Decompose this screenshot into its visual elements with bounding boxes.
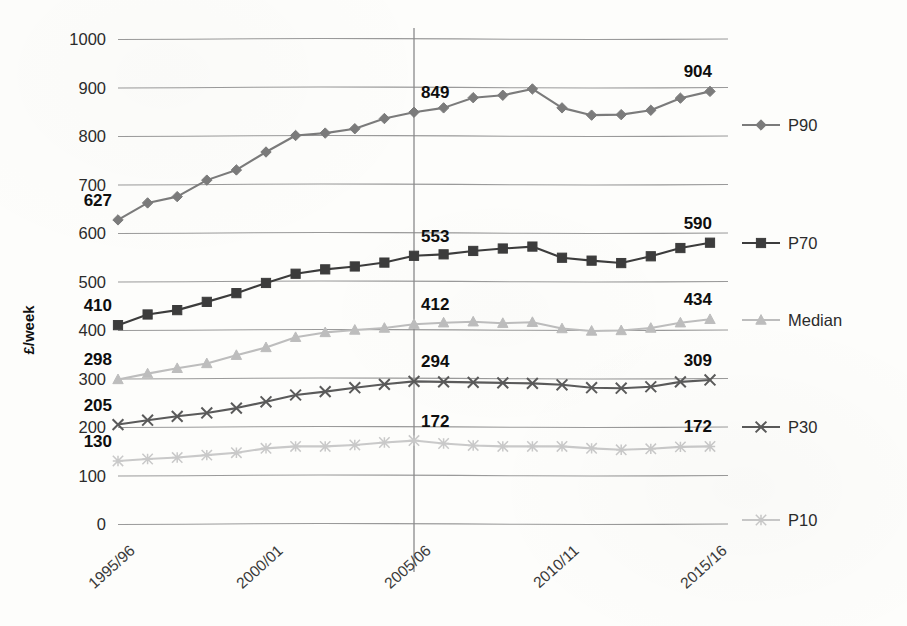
y-axis-tick-label: 900 — [78, 79, 106, 97]
data-point-marker — [143, 310, 152, 319]
data-point-marker — [675, 442, 685, 452]
y-axis-tick-label: 600 — [78, 224, 106, 242]
x-axis-tick-label: 2015/16 — [677, 542, 730, 592]
data-point-marker — [756, 238, 765, 247]
data-point-marker — [172, 191, 182, 201]
data-point-label: 553 — [421, 227, 449, 246]
data-point-marker — [756, 120, 766, 130]
y-axis-tick-label: 400 — [78, 321, 106, 339]
data-point-marker — [290, 130, 300, 140]
data-point-marker — [173, 306, 182, 315]
data-point-marker — [438, 438, 448, 448]
y-axis-tick-label: 0 — [97, 515, 106, 533]
data-point-marker — [586, 443, 596, 453]
data-point-marker — [320, 128, 330, 138]
y-axis-tick-label: 300 — [78, 370, 106, 388]
data-point-marker — [527, 441, 537, 451]
data-point-marker — [113, 215, 123, 225]
data-point-marker — [469, 246, 478, 255]
series-p10: 130172172 — [84, 412, 716, 467]
data-point-marker — [261, 443, 271, 453]
data-point-marker — [646, 444, 656, 454]
y-axis-tick-label: 100 — [78, 467, 106, 485]
data-point-marker — [231, 448, 241, 458]
data-point-marker — [172, 452, 182, 462]
legend-item-label: P30 — [788, 418, 817, 436]
line-chart: 01002003004005006007008009001000£/week19… — [0, 0, 907, 626]
data-point-marker — [142, 198, 152, 208]
legend-item-label: Median — [788, 311, 842, 329]
data-point-marker — [675, 93, 685, 103]
data-point-marker — [350, 124, 360, 134]
data-point-marker — [261, 147, 271, 157]
data-point-label: 130 — [84, 432, 112, 451]
data-point-marker — [527, 84, 537, 94]
data-point-marker — [646, 105, 656, 115]
data-point-marker — [676, 243, 685, 252]
data-point-label: 172 — [684, 417, 712, 436]
y-axis-tick-label: 800 — [78, 127, 106, 145]
data-point-marker — [232, 289, 241, 298]
data-point-marker — [468, 440, 478, 450]
legend-item-p30[interactable]: P30 — [742, 418, 817, 436]
data-point-marker — [409, 251, 418, 260]
x-axis-tick-label: 1995/96 — [85, 542, 138, 592]
data-point-label: 205 — [84, 396, 112, 415]
data-point-marker — [409, 107, 419, 117]
data-point-marker — [468, 92, 478, 102]
y-axis-tick-label: 500 — [78, 273, 106, 291]
data-point-label: 172 — [421, 412, 449, 431]
legend-item-p90[interactable]: P90 — [742, 116, 817, 134]
data-point-marker — [557, 103, 567, 113]
data-point-label: 294 — [421, 352, 450, 371]
data-point-marker — [557, 441, 567, 451]
data-point-marker — [291, 269, 300, 278]
y-axis-title: £/week — [20, 305, 37, 355]
data-point-marker — [202, 297, 211, 306]
data-point-marker — [438, 103, 448, 113]
data-point-marker — [320, 441, 330, 451]
data-point-label: 590 — [684, 214, 712, 233]
legend-item-label: P70 — [788, 234, 817, 252]
data-point-marker — [202, 450, 212, 460]
data-point-label: 298 — [84, 350, 112, 369]
data-point-marker — [616, 109, 626, 119]
x-axis-tick-label: 2000/01 — [233, 542, 286, 592]
data-point-marker — [321, 265, 330, 274]
legend-item-median[interactable]: Median — [742, 311, 842, 329]
data-point-marker — [705, 238, 714, 247]
y-axis-tick-label: 1000 — [69, 30, 106, 48]
data-point-marker — [587, 256, 596, 265]
data-point-label: 627 — [84, 191, 112, 210]
data-point-label: 412 — [421, 295, 449, 314]
data-point-label: 904 — [684, 62, 713, 81]
legend-item-p10[interactable]: P10 — [742, 511, 817, 529]
data-point-marker — [498, 90, 508, 100]
x-axis-tick-label: 2010/11 — [530, 542, 582, 591]
data-point-marker — [409, 435, 419, 445]
data-point-marker — [261, 278, 270, 287]
series-p30: 205294309 — [84, 351, 716, 430]
chart-container: 01002003004005006007008009001000£/week19… — [0, 0, 907, 626]
chart-legend: P90P70MedianP30P10 — [742, 116, 842, 529]
data-point-marker — [379, 437, 389, 447]
data-point-marker — [350, 262, 359, 271]
data-point-marker — [586, 110, 596, 120]
legend-item-p70[interactable]: P70 — [742, 234, 817, 252]
data-point-marker — [498, 244, 507, 253]
data-point-marker — [498, 441, 508, 451]
data-point-marker — [756, 515, 766, 525]
data-point-marker — [557, 253, 566, 262]
data-point-marker — [202, 175, 212, 185]
data-point-marker — [617, 258, 626, 267]
data-point-label: 434 — [684, 290, 713, 309]
data-point-marker — [616, 445, 626, 455]
series-p70: 410553590 — [84, 214, 715, 330]
data-point-marker — [290, 441, 300, 451]
data-point-marker — [646, 252, 655, 261]
data-point-label: 849 — [421, 83, 449, 102]
data-point-marker — [380, 258, 389, 267]
data-point-label: 410 — [84, 296, 112, 315]
x-axis-tick-label: 2005/06 — [381, 542, 434, 592]
x-axis-tick-labels: 1995/962000/012005/062010/112015/16 — [85, 542, 730, 592]
